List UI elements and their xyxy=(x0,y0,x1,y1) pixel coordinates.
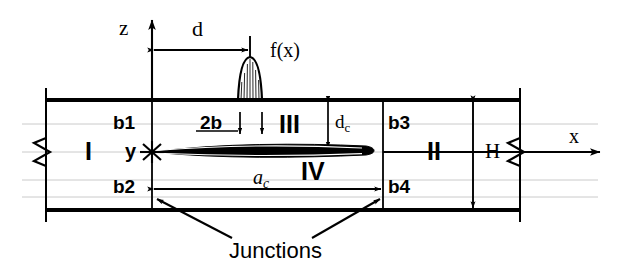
region-III-label: III xyxy=(279,112,300,137)
y-origin-label: y xyxy=(125,141,136,161)
junction-leader-right xyxy=(312,199,380,238)
dimension-ac-main: a xyxy=(253,166,263,188)
schematic-drawing xyxy=(0,0,619,272)
dimension-dc-label: dc xyxy=(335,112,350,131)
boundary-b2-label: b2 xyxy=(113,177,135,196)
dimension-dc-sub: c xyxy=(345,120,351,135)
dimension-2b-label: 2b xyxy=(200,113,222,132)
dimension-ac-label: ac xyxy=(253,167,269,187)
boundary-b4-label: b4 xyxy=(388,177,410,196)
junction-leader-left xyxy=(157,199,232,238)
crack-tip-marker xyxy=(140,141,164,163)
region-IV-label: IV xyxy=(301,159,325,184)
region-II-label: II xyxy=(427,139,441,164)
figure-canvas: z x y d f(x) 2b dc ac H I II III IV b1 b… xyxy=(0,0,619,272)
dimension-d-label: d xyxy=(192,18,203,40)
load-label: f(x) xyxy=(270,40,300,60)
junctions-label: Junctions xyxy=(229,240,322,262)
dimension-ac-sub: c xyxy=(263,176,269,191)
dimension-H-label: H xyxy=(485,141,500,162)
region-I-label: I xyxy=(85,139,92,164)
load-curve xyxy=(238,57,262,100)
crack-lens xyxy=(152,144,374,157)
dimension-dc-main: d xyxy=(335,111,345,132)
z-axis-label: z xyxy=(119,18,128,39)
boundary-b3-label: b3 xyxy=(388,113,410,132)
x-axis-label: x xyxy=(569,126,579,146)
junction-leaders xyxy=(157,199,380,238)
boundary-b1-label: b1 xyxy=(113,113,135,132)
